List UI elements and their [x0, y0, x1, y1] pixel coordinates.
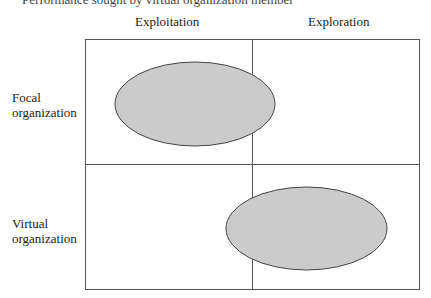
matrix-diagram [0, 0, 431, 298]
ellipse-virtual-exploration [226, 187, 387, 270]
ellipse-focal-exploitation [115, 62, 275, 146]
